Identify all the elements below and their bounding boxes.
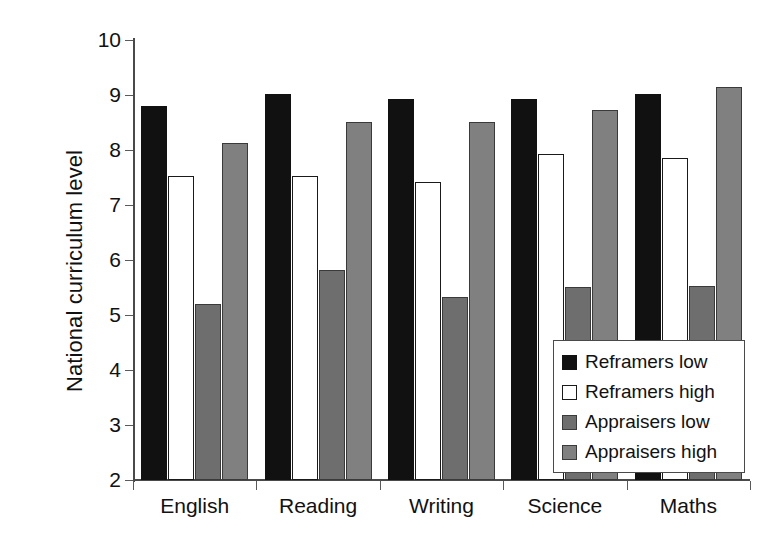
y-tick-mark: [125, 315, 133, 316]
bar: [388, 99, 414, 480]
bar: [265, 94, 291, 480]
legend-item: Reframers low: [562, 347, 736, 377]
bar: [222, 143, 248, 480]
x-tick-mark: [256, 481, 257, 490]
bar: [195, 304, 221, 480]
bar: [469, 122, 495, 480]
legend-label: Appraisers low: [585, 411, 710, 433]
bar: [168, 176, 194, 480]
x-tick-mark: [133, 481, 134, 490]
y-tick-label: 2: [75, 469, 121, 490]
y-tick-mark: [125, 150, 133, 151]
y-tick-mark: [125, 480, 133, 481]
x-tick-mark: [380, 481, 381, 490]
bar: [415, 182, 441, 480]
legend-swatch-icon: [562, 355, 577, 370]
legend-swatch-icon: [562, 445, 577, 460]
y-tick-label: 9: [75, 84, 121, 105]
y-tick-label: 7: [75, 194, 121, 215]
x-tick-mark: [503, 481, 504, 490]
legend-item: Appraisers high: [562, 437, 736, 467]
legend-label: Appraisers high: [585, 441, 717, 463]
y-tick-label: 5: [75, 304, 121, 325]
y-tick-mark: [125, 370, 133, 371]
y-tick-mark: [125, 40, 133, 41]
bar: [292, 176, 318, 480]
legend: Reframers lowReframers highAppraisers lo…: [553, 340, 745, 473]
x-tick-label-science: Science: [495, 494, 635, 518]
y-tick-label: 10: [75, 29, 121, 50]
y-tick-mark: [125, 95, 133, 96]
y-tick-label: 6: [75, 249, 121, 270]
bar: [319, 270, 345, 480]
bar: [442, 297, 468, 480]
y-tick-label: 3: [75, 414, 121, 435]
bar: [511, 99, 537, 480]
legend-swatch-icon: [562, 385, 577, 400]
legend-label: Reframers high: [585, 381, 715, 403]
legend-swatch-icon: [562, 415, 577, 430]
bar: [141, 106, 167, 480]
legend-item: Appraisers low: [562, 407, 736, 437]
y-tick-mark: [125, 260, 133, 261]
bar: [346, 122, 372, 480]
bar-chart: National curriculum level 1098765432 Eng…: [0, 0, 784, 557]
y-tick-label: 4: [75, 359, 121, 380]
x-tick-mark: [627, 481, 628, 490]
y-tick-label: 8: [75, 139, 121, 160]
x-tick-label-reading: Reading: [248, 494, 388, 518]
legend-label: Reframers low: [585, 351, 707, 373]
x-tick-label-maths: Maths: [618, 494, 758, 518]
x-tick-label-english: English: [125, 494, 265, 518]
y-tick-mark: [125, 425, 133, 426]
x-tick-mark: [750, 481, 751, 490]
x-tick-label-writing: Writing: [372, 494, 512, 518]
legend-item: Reframers high: [562, 377, 736, 407]
y-tick-mark: [125, 205, 133, 206]
